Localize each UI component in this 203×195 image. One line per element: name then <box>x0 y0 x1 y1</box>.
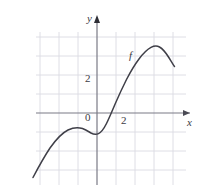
y-axis-label: y <box>87 13 92 24</box>
plot-canvas <box>0 0 203 195</box>
curve-label-f: f <box>129 50 132 61</box>
y-tick-label-2: 2 <box>85 73 91 84</box>
graph-figure: y x 0 2 2 f <box>0 0 203 195</box>
x-axis-label: x <box>187 117 192 128</box>
function-curve <box>33 46 175 177</box>
x-tick-label-2: 2 <box>121 115 127 126</box>
grid-lines <box>36 32 186 185</box>
y-axis <box>94 15 100 185</box>
origin-tick-label: 0 <box>85 112 91 123</box>
